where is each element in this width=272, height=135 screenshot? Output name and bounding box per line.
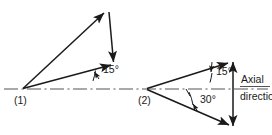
diagram-2-angle-15-arc xyxy=(210,73,212,83)
axial-direction-label-line1: Axial xyxy=(241,73,264,85)
vector-diagram-canvas: 15° (1) 15° 30° (2) Axial xyxy=(0,0,272,135)
diagram-2-angle-30-label: 30° xyxy=(200,93,216,105)
diagram-2-vertex-label: (2) xyxy=(138,94,151,106)
diagram-2-angle-15-label: 15° xyxy=(216,65,232,77)
diagram-2-angle-15-pointer xyxy=(211,62,212,72)
diagram-1-angle-pointer xyxy=(95,72,100,79)
diagram-2-group: 15° 30° (2) xyxy=(138,62,233,126)
diagram-2-lower-diagonal-vector xyxy=(147,90,229,126)
diagram-2-angle-30-arc xyxy=(189,92,193,105)
axial-direction-label-group: Axial direction xyxy=(240,73,272,102)
diagram-1-vertical-closing-vector xyxy=(109,12,114,62)
axial-direction-label-line2: direction xyxy=(240,90,272,102)
diagram-1-vertex-label: (1) xyxy=(14,94,27,106)
diagram-1-angle-label: 15° xyxy=(103,63,119,75)
diagram-1-group: 15° (1) xyxy=(14,12,119,106)
velocity-triangle-figure: 15° (1) 15° 30° (2) Axial xyxy=(0,0,272,135)
